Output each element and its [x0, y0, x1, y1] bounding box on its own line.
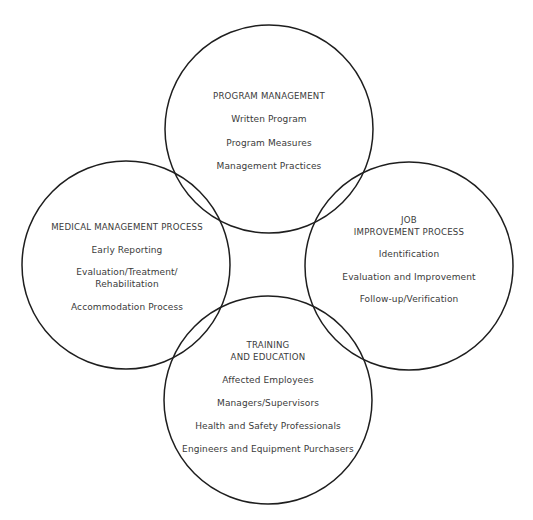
- job-improvement-item: Evaluation and Improvement: [342, 271, 475, 283]
- training-education-item: Managers/Supervisors: [217, 397, 319, 409]
- program-management-item: Management Practices: [217, 160, 322, 172]
- job-improvement-title-line1: JOB: [401, 214, 417, 226]
- training-education-item: Health and Safety Professionals: [195, 420, 341, 432]
- circle-job-improvement: [305, 162, 513, 370]
- medical-management-title: MEDICAL MANAGEMENT PROCESS: [51, 221, 203, 233]
- medical-management-item: Early Reporting: [92, 244, 163, 256]
- program-management-title: PROGRAM MANAGEMENT: [213, 90, 325, 102]
- job-improvement-item: Follow-up/Verification: [360, 293, 459, 305]
- medical-management-item: Evaluation/Treatment/: [76, 266, 177, 278]
- circle-medical-management: [22, 161, 230, 369]
- medical-management-item: Accommodation Process: [71, 301, 183, 313]
- training-education-item: Affected Employees: [222, 374, 313, 386]
- circle-program-management: [165, 25, 373, 233]
- job-improvement-title-line2: IMPROVEMENT PROCESS: [354, 226, 464, 238]
- medical-management-item: Rehabilitation: [95, 278, 159, 290]
- venn-diagram: [0, 0, 533, 520]
- program-management-item: Written Program: [231, 113, 306, 125]
- training-education-title-line1: TRAINING: [247, 339, 290, 351]
- program-management-item: Program Measures: [226, 137, 311, 149]
- training-education-title-line2: AND EDUCATION: [231, 351, 306, 363]
- training-education-item: Engineers and Equipment Purchasers: [182, 443, 354, 455]
- job-improvement-item: Identification: [379, 248, 439, 260]
